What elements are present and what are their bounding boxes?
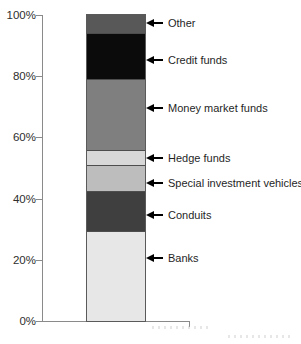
y-axis-tick-label: 80% bbox=[0, 69, 36, 83]
series-label: Other bbox=[168, 17, 196, 29]
cropped-caption-remnant bbox=[228, 335, 294, 338]
arrow-left-icon bbox=[146, 154, 154, 162]
arrow-left-icon bbox=[146, 254, 154, 262]
stacked-bar-chart: 0%20%40%60%80%100%BanksConduitsSpecial i… bbox=[0, 0, 301, 344]
callout-other: Other bbox=[146, 17, 196, 29]
series-label: Hedge funds bbox=[168, 152, 230, 164]
y-axis-tick-label: 100% bbox=[0, 8, 36, 22]
arrow-left-icon bbox=[146, 56, 154, 64]
arrow-left-icon bbox=[146, 104, 154, 112]
callout-banks: Banks bbox=[146, 252, 199, 264]
arrow-left-icon bbox=[146, 179, 154, 187]
plot-area: 0%20%40%60%80%100%BanksConduitsSpecial i… bbox=[0, 0, 301, 344]
arrow-tail bbox=[154, 214, 163, 216]
callout-credit-funds: Credit funds bbox=[146, 54, 227, 66]
series-label: Money market funds bbox=[168, 102, 268, 114]
bar-segment-special-investment-vehicles bbox=[87, 165, 145, 191]
bar-segment-other bbox=[87, 15, 145, 33]
y-axis-tick-label: 40% bbox=[0, 192, 36, 206]
bar-segment-credit-funds bbox=[87, 33, 145, 79]
callout-special-investment-vehicles: Special investment vehicles bbox=[146, 177, 301, 189]
series-label: Credit funds bbox=[168, 54, 227, 66]
bar-segment-hedge-funds bbox=[87, 150, 145, 165]
y-axis-tick bbox=[36, 76, 42, 77]
y-axis-tick bbox=[36, 199, 42, 200]
y-axis-tick bbox=[36, 260, 42, 261]
arrow-left-icon bbox=[146, 19, 154, 27]
y-axis-tick bbox=[36, 137, 42, 138]
arrow-tail bbox=[154, 59, 163, 61]
y-axis-tick-label: 20% bbox=[0, 253, 36, 267]
y-axis-line bbox=[42, 15, 43, 322]
callout-hedge-funds: Hedge funds bbox=[146, 152, 230, 164]
bar-segment-banks bbox=[87, 231, 145, 321]
x-axis-line bbox=[36, 321, 190, 322]
y-axis-tick-label: 0% bbox=[0, 314, 36, 328]
bar-segment-conduits bbox=[87, 191, 145, 231]
y-axis-tick bbox=[36, 15, 42, 16]
arrow-tail bbox=[154, 182, 163, 184]
callout-money-market-funds: Money market funds bbox=[146, 102, 268, 114]
arrow-tail bbox=[154, 257, 163, 259]
y-axis-tick-label: 60% bbox=[0, 130, 36, 144]
series-label: Conduits bbox=[168, 209, 211, 221]
callout-conduits: Conduits bbox=[146, 209, 211, 221]
series-label: Banks bbox=[168, 252, 199, 264]
y-axis-tick bbox=[36, 321, 42, 322]
arrow-tail bbox=[154, 107, 163, 109]
arrow-left-icon bbox=[146, 211, 154, 219]
bar-segment-money-market-funds bbox=[87, 79, 145, 149]
arrow-tail bbox=[154, 22, 163, 24]
cropped-caption-remnant bbox=[152, 326, 210, 329]
stacked-bar bbox=[87, 15, 145, 321]
series-label: Special investment vehicles bbox=[168, 177, 301, 189]
arrow-tail bbox=[154, 157, 163, 159]
